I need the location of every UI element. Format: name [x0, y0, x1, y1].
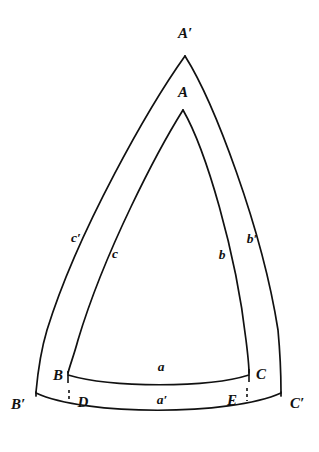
side-label-a: a [158, 359, 165, 374]
vertex-label-b-prime: B′ [10, 396, 25, 412]
outer-left-arc [36, 56, 185, 392]
side-label-b: b [219, 247, 226, 262]
vertex-label-a: A [177, 84, 188, 100]
vertex-label-a-prime: A′ [177, 25, 192, 41]
inner-bottom-arc [68, 375, 249, 385]
diagram-canvas: A′ A B C B′ C′ D E a a′ b b′ c c′ [0, 0, 319, 452]
inner-left-arc [68, 110, 183, 373]
vertex-label-d: D [77, 394, 89, 410]
vertex-label-b: B [52, 367, 63, 383]
side-label-c-prime: c′ [71, 230, 81, 245]
vertex-label-c-prime: C′ [290, 395, 304, 411]
side-label-c: c [112, 246, 118, 261]
spherical-triangle-figure: A′ A B C B′ C′ D E a a′ b b′ c c′ [0, 0, 319, 452]
outer-right-arc [185, 56, 281, 392]
side-label-b-prime: b′ [247, 231, 258, 246]
inner-right-arc [183, 110, 249, 373]
vertex-label-c: C [256, 366, 267, 382]
vertex-label-e: E [226, 392, 237, 408]
side-label-a-prime: a′ [157, 392, 168, 407]
